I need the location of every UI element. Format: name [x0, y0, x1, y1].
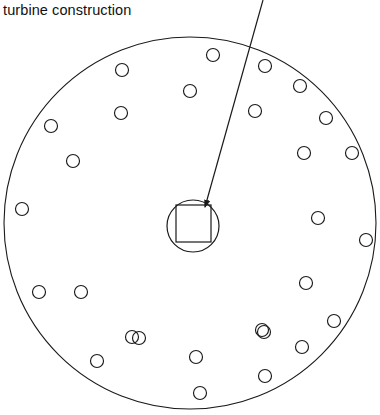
- bolt-hole: [91, 355, 104, 368]
- turbine-construction-diagram: [0, 0, 380, 415]
- bolt-hole: [312, 212, 325, 225]
- bolt-hole: [16, 203, 29, 216]
- turbine-disc: [4, 37, 376, 409]
- bolt-hole: [33, 286, 46, 299]
- bolt-hole: [360, 234, 373, 247]
- bolt-hole: [116, 64, 129, 77]
- bolt-hole: [194, 387, 207, 400]
- bolt-hole: [249, 105, 262, 118]
- bolt-hole: [296, 341, 309, 354]
- bolt-hole: [300, 277, 313, 290]
- figure-canvas: turbine construction turbineconstruction: [0, 0, 380, 415]
- central-hub: [167, 200, 219, 252]
- bolt-hole: [190, 351, 203, 364]
- bolt-hole: [115, 107, 128, 120]
- bolt-hole: [328, 315, 341, 328]
- leader-line: [205, 0, 263, 207]
- bolt-hole: [75, 286, 88, 299]
- bolt-hole: [298, 147, 311, 160]
- bolt-hole: [207, 49, 220, 62]
- bolt-hole: [346, 147, 359, 160]
- bolt-hole: [184, 85, 197, 98]
- bolt-hole: [294, 80, 307, 93]
- bolt-hole: [320, 112, 333, 125]
- turbine-disc-outline: [4, 37, 376, 409]
- bolt-hole: [67, 155, 80, 168]
- bolt-hole: [259, 60, 272, 73]
- bolt-hole: [259, 370, 272, 383]
- hub-square: [176, 205, 211, 242]
- bolt-hole: [45, 120, 58, 133]
- bolt-hole-ring-inner: [67, 64, 325, 364]
